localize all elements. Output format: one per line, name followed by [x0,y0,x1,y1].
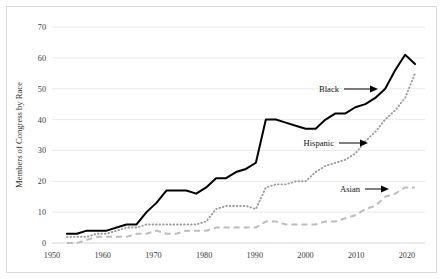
annotation-black: Black [319,84,378,94]
annotation-arrow-head-asian [381,185,389,192]
annotation-arrow-head-hispanic [360,139,368,146]
y-tick-label-10: 10 [38,208,46,217]
series-line-asian [67,187,415,243]
y-axis-title: Members of Congress by Race [14,82,24,188]
x-tick-label-2010: 2010 [348,251,364,260]
x-tick-label-1990: 1990 [247,251,263,260]
x-tick-label-1960: 1960 [95,251,111,260]
y-tick-labels: 70 60 50 40 30 20 10 0 [38,23,46,248]
y-tick-label-60: 60 [38,54,46,63]
y-tick-label-50: 50 [38,85,46,94]
y-tick-label-70: 70 [38,23,46,32]
chart-figure: 70 60 50 40 30 20 10 0 1950 1960 1970 19… [0,0,443,279]
annotation-label-hispanic: Hispanic [303,138,334,148]
annotation-label-asian: Asian [340,184,361,194]
y-tick-label-30: 30 [38,146,46,155]
y-tick-label-0: 0 [42,239,46,248]
x-tick-label-1950: 1950 [44,251,60,260]
y-tick-label-40: 40 [38,116,46,125]
y-gridlines [52,27,425,212]
y-tick-label-20: 20 [38,177,46,186]
annotation-arrow-head-black [370,85,378,92]
x-tick-labels: 1950 1960 1970 1980 1990 2000 2010 2020 [44,251,415,260]
line-chart: 70 60 50 40 30 20 10 0 1950 1960 1970 19… [0,0,443,279]
annotation-asian: Asian [340,184,389,194]
x-tick-label-2000: 2000 [297,251,313,260]
x-tick-label-1980: 1980 [196,251,212,260]
annotation-label-black: Black [319,84,340,94]
x-tick-label-2020: 2020 [399,251,415,260]
x-tick-label-1970: 1970 [145,251,161,260]
annotation-hispanic: Hispanic [303,138,368,148]
